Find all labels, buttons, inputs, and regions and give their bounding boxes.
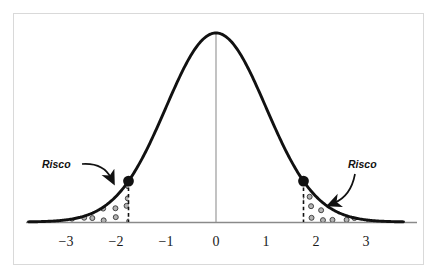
risco-label-right: Risco (348, 158, 377, 170)
left-critical-point-marker (123, 176, 134, 187)
x-axis-tick-labels: −3−2−10123 (59, 234, 370, 249)
normal-distribution-chart: Risco Risco −3−2−10123 (0, 0, 443, 280)
risco-arrow-right (334, 174, 355, 203)
tick-label-1: −2 (109, 234, 124, 249)
tick-label-2: −1 (159, 234, 174, 249)
tick-label-5: 2 (313, 234, 320, 249)
risco-arrow-left (82, 164, 111, 178)
tick-label-4: 1 (263, 234, 270, 249)
tick-label-0: −3 (59, 234, 74, 249)
right-critical-point-marker (298, 176, 309, 187)
right-tail-shading (295, 39, 408, 224)
tick-label-6: 3 (363, 234, 370, 249)
risco-label-left: Risco (42, 158, 71, 170)
tick-label-3: 0 (213, 234, 220, 249)
